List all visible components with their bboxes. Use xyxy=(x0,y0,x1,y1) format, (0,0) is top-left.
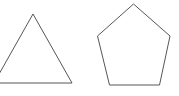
shapes-figure xyxy=(0,0,179,96)
shapes-canvas xyxy=(0,0,179,96)
